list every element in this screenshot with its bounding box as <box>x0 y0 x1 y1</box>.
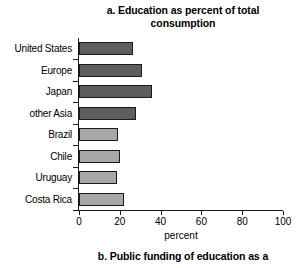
y-axis-tick <box>73 124 78 125</box>
y-axis-tick <box>73 59 78 60</box>
category-label: Uruguay <box>36 171 72 185</box>
y-axis-tick <box>73 145 78 146</box>
x-axis-tick-label: 0 <box>64 216 94 227</box>
x-axis-tick-label: 80 <box>227 216 257 227</box>
bar <box>79 128 118 141</box>
y-axis-tick <box>73 210 78 211</box>
category-axis-labels: United StatesEuropeJapanother AsiaBrazil… <box>0 38 75 210</box>
y-axis-tick <box>73 188 78 189</box>
x-axis-tick <box>283 211 284 215</box>
chart-a-title: a. Education as percent of total consump… <box>74 4 292 30</box>
bar <box>79 193 124 206</box>
chart-a-title-line-1: a. Education as percent of total <box>74 4 292 17</box>
y-axis-tick <box>73 81 78 82</box>
x-axis-tick-label: 60 <box>186 216 216 227</box>
category-label: United States <box>15 42 72 56</box>
bar <box>79 171 117 184</box>
category-label: Brazil <box>48 128 72 142</box>
x-axis-tick-label: 20 <box>105 216 135 227</box>
category-label: Japan <box>46 85 72 99</box>
x-axis-tick-label: 40 <box>146 216 176 227</box>
x-axis-tick <box>201 211 202 215</box>
x-axis-tick-label: 100 <box>268 216 298 227</box>
bar <box>79 42 133 55</box>
category-label: other Asia <box>30 107 72 121</box>
bar <box>79 150 120 163</box>
plot-area: United StatesEuropeJapanother AsiaBrazil… <box>0 38 298 213</box>
x-axis-tick <box>242 211 243 215</box>
x-axis-line <box>79 210 283 211</box>
bar <box>79 64 142 77</box>
x-axis-tick <box>161 211 162 215</box>
bar-series <box>79 38 284 210</box>
y-axis-tick <box>73 102 78 103</box>
y-axis-tick <box>73 167 78 168</box>
chart-b-title-partial: b. Public funding of education as a <box>74 250 292 263</box>
x-axis-title: percent <box>79 230 283 241</box>
x-axis-tick <box>120 211 121 215</box>
bar <box>79 107 136 120</box>
category-label: Costa Rica <box>25 193 72 207</box>
chart-page: a. Education as percent of total consump… <box>0 0 298 268</box>
category-label: Europe <box>41 64 72 78</box>
bar <box>79 85 152 98</box>
category-label: Chile <box>50 150 72 164</box>
x-axis-tick <box>79 211 80 215</box>
y-axis-line <box>78 38 79 211</box>
chart-a-title-line-2: consumption <box>74 17 292 30</box>
